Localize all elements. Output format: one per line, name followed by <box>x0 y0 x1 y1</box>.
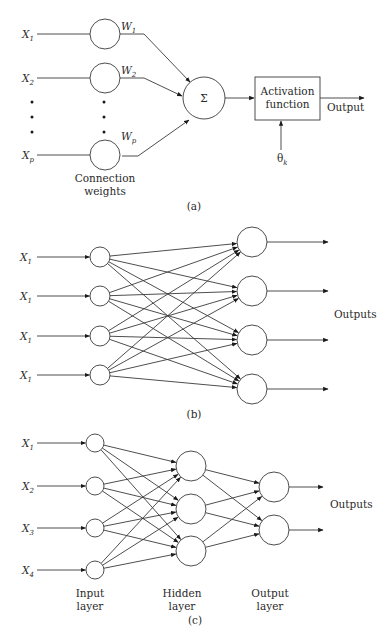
panel-c-hidden-node-3 <box>176 536 206 566</box>
caption-a: (a) <box>187 200 201 212</box>
panel-c-connection <box>206 534 259 548</box>
output-label: Output <box>327 101 365 113</box>
panel-c-input-node-2 <box>86 477 104 495</box>
panel-c-connection <box>206 470 259 484</box>
panel-c-input-node-3 <box>86 519 104 537</box>
input-label-c-4: X4 <box>21 564 34 579</box>
input-layer-label-line2: layer <box>77 600 105 612</box>
caption-c: (c) <box>188 614 202 626</box>
panel-b-output-node-4 <box>237 374 267 404</box>
outputs-label-b: Outputs <box>334 308 377 320</box>
hidden-layer-label-line1: Hidden <box>163 587 202 599</box>
input-label-c-1: X1 <box>21 437 34 452</box>
panel-c-connection <box>104 554 176 568</box>
activation-label-line2: function <box>266 98 310 110</box>
panel-c-hidden-node-1 <box>176 451 206 481</box>
hidden-layer-label-line2: layer <box>169 600 197 612</box>
panel-c-connection <box>104 445 176 462</box>
caption-b: (b) <box>187 408 202 420</box>
input-layer-label-line1: Input <box>76 587 105 599</box>
connection-weights-caption-line2: weights <box>84 185 126 197</box>
input-label-b-3: X1 <box>19 330 32 345</box>
panel-b-output-node-3 <box>237 325 267 355</box>
panel-b-output-node-1 <box>237 227 267 257</box>
input-label-b-2: X1 <box>19 290 32 305</box>
panel-b-connection <box>110 376 237 388</box>
input-label-x2: X2 <box>21 72 34 87</box>
panel-c-output-node-1 <box>259 472 289 502</box>
input-label-b-1: X1 <box>19 251 32 266</box>
panel-b-input-node-4 <box>90 365 110 385</box>
summation-symbol: Σ <box>200 92 207 104</box>
panel-c-output-node-2 <box>259 515 289 545</box>
input-label-b-4: X1 <box>19 369 32 384</box>
panel-b-connection <box>110 299 238 336</box>
neural-network-diagram: X1 X2 Xp W1 W2 Wp Connection <box>0 0 387 643</box>
activation-label-line1: Activation <box>260 85 315 97</box>
panel-b-connection <box>109 262 239 333</box>
panel-b-input-node-3 <box>90 326 110 346</box>
input-label-c-3: X3 <box>21 522 34 537</box>
panel-c-connection <box>104 469 176 484</box>
panel-b-connection <box>110 336 237 339</box>
panel-c-connection <box>104 530 176 547</box>
panel-a-single-neuron: X1 X2 Xp W1 W2 Wp Connection <box>21 19 365 212</box>
connection-weights-caption-line1: Connection <box>75 172 136 184</box>
panel-c-input-node-4 <box>86 561 104 579</box>
ellipsis-dots-weights <box>103 101 106 134</box>
weight-node-p <box>90 140 120 170</box>
panel-c-connections <box>37 434 323 579</box>
input-label-x1: X1 <box>21 28 34 43</box>
panel-b-connection <box>110 292 237 296</box>
input-label-xp: Xp <box>21 149 34 164</box>
weight-label-w2: W2 <box>121 64 137 79</box>
outputs-label-c: Outputs <box>330 498 373 510</box>
panel-b-connection <box>109 298 239 370</box>
panel-c-input-node-1 <box>86 434 104 452</box>
panel-c-hidden-node-2 <box>176 494 206 524</box>
threshold-label: θk <box>277 152 288 167</box>
panel-b-input-node-1 <box>90 247 110 267</box>
panel-b-input-node-2 <box>90 286 110 306</box>
weight-node-1 <box>90 19 120 49</box>
panel-b-connection <box>110 295 238 333</box>
output-layer-label-line2: layer <box>257 600 285 612</box>
panel-b-output-node-2 <box>237 276 267 306</box>
panel-b-single-layer-network: X1 X1 X1 X1 Outputs (b) <box>19 227 377 420</box>
panel-b-connection <box>109 250 239 331</box>
weight-label-w1: W1 <box>121 20 136 35</box>
panel-c-connection <box>104 512 176 526</box>
panel-b-connections <box>37 227 328 404</box>
output-layer-label-line1: Output <box>251 587 289 599</box>
weight-node-2 <box>90 63 120 93</box>
panel-c-multilayer-network: X1 X2 X3 X4 Outputs Input layer Hidden l… <box>21 434 373 626</box>
weight-label-wp: Wp <box>121 130 137 145</box>
input-label-c-2: X2 <box>21 480 34 495</box>
panel-c-connection <box>205 491 259 505</box>
weighted-connection-2 <box>120 78 182 96</box>
panel-c-connection <box>101 450 181 540</box>
ellipsis-dots-inputs <box>31 101 34 134</box>
